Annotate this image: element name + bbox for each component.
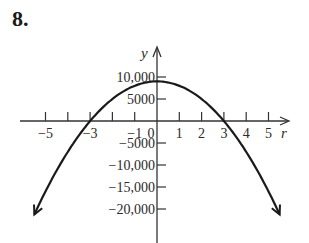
parabola-chart: ry−5−3−101234510,0005000−5000−10,000−15,…: [0, 0, 309, 243]
x-tick-label: 2: [198, 126, 205, 141]
x-tick-label: −5: [38, 126, 53, 141]
tick-labels: ry−5−3−101234510,0005000−5000−10,000−15,…: [38, 45, 287, 217]
y-tick-label: −5000: [119, 136, 155, 151]
y-tick-label: −20,000: [109, 202, 155, 217]
y-tick-label: 5000: [127, 92, 155, 107]
x-tick-label: 1: [176, 126, 183, 141]
y-axis-label: y: [139, 45, 148, 61]
y-tick-label: −15,000: [109, 180, 155, 195]
x-tick-label: 3: [220, 126, 227, 141]
x-tick-label: 5: [265, 126, 272, 141]
y-tick-label: −10,000: [109, 158, 155, 173]
x-axis-label: r: [281, 125, 287, 141]
x-tick-label: 4: [243, 126, 250, 141]
